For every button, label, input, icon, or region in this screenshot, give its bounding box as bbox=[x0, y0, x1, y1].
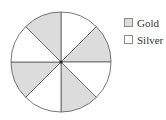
pie-center-dot bbox=[60, 61, 63, 64]
legend-label-gold: Gold bbox=[137, 17, 159, 29]
legend-item-gold: Gold bbox=[124, 14, 163, 31]
silver-swatch bbox=[124, 35, 133, 44]
legend-item-silver: Silver bbox=[124, 31, 163, 48]
gold-swatch bbox=[124, 18, 133, 27]
legend: Gold Silver bbox=[124, 14, 163, 48]
legend-label-silver: Silver bbox=[137, 34, 163, 46]
pie-chart bbox=[0, 0, 120, 120]
